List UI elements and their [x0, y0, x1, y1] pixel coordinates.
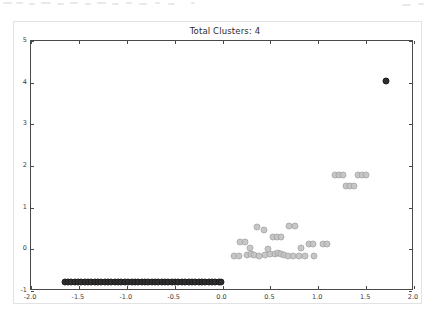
- y-tick-1: [31, 249, 34, 250]
- y-tick-label-1: 0: [18, 244, 27, 252]
- y-tick-6: [31, 41, 34, 42]
- x-tick-2: [127, 286, 128, 289]
- x-tick-label-7: 1.5: [360, 293, 370, 301]
- scan-fleck-11: [155, 2, 160, 4]
- data-point-cluster-2-15: [302, 252, 309, 259]
- y-tick-2: [409, 208, 412, 209]
- x-tick-label-2: -1.0: [119, 293, 132, 301]
- x-tick-4: [223, 286, 224, 289]
- x-tick-7: [366, 41, 367, 44]
- x-tick-label-4: 0.0: [216, 293, 226, 301]
- scan-fleck-0: [3, 2, 12, 4]
- x-tick-1: [79, 286, 80, 289]
- scan-fleck-14: [402, 4, 411, 6]
- y-tick-2: [31, 208, 34, 209]
- data-point-cluster-2-16: [310, 252, 317, 259]
- scan-fleck-12: [168, 3, 175, 5]
- data-point-cluster-2-22: [260, 226, 267, 233]
- data-point-cluster-2-32: [324, 241, 331, 248]
- data-point-cluster-2-28: [247, 244, 254, 251]
- x-tick-label-5: 0.5: [264, 293, 274, 301]
- y-tick-label-6: 5: [18, 36, 27, 44]
- scan-fleck-3: [41, 2, 51, 4]
- scan-fleck-15: [418, 3, 424, 5]
- x-tick-8: [414, 41, 415, 44]
- x-tick-1: [79, 41, 80, 44]
- scan-fleck-6: [85, 3, 91, 5]
- x-tick-7: [366, 286, 367, 289]
- x-tick-label-3: -0.5: [167, 293, 180, 301]
- x-tick-6: [318, 41, 319, 44]
- x-tick-label-6: 1.0: [312, 293, 322, 301]
- y-tick-5: [409, 83, 412, 84]
- x-tick-8: [414, 286, 415, 289]
- matplotlib-figure: Total Clusters: 4 -2.0-1.5-1.0-0.50.00.5…: [0, 0, 435, 325]
- scan-fleck-1: [16, 2, 23, 4]
- x-tick-label-8: 2.0: [408, 293, 418, 301]
- data-point-cluster-3-5: [363, 171, 370, 178]
- scan-fleck-10: [139, 3, 147, 5]
- data-point-cluster-2-1: [236, 252, 243, 259]
- data-point-cluster-4-0: [382, 77, 389, 84]
- data-point-cluster-2-24: [291, 223, 298, 230]
- y-tick-label-0: -1: [18, 286, 27, 294]
- x-tick-0: [31, 286, 32, 289]
- scan-fleck-13: [191, 2, 195, 4]
- scan-fleck-5: [70, 2, 78, 4]
- y-tick-label-2: 1: [18, 203, 27, 211]
- scan-artifact-band: [0, 0, 435, 14]
- y-tick-label-4: 3: [18, 119, 27, 127]
- plot-axes: [30, 40, 413, 290]
- x-tick-3: [175, 41, 176, 44]
- data-point-cluster-2-27: [278, 234, 285, 241]
- y-tick-label-5: 4: [18, 78, 27, 86]
- x-tick-label-0: -2.0: [24, 293, 37, 301]
- plot-title: Total Clusters: 4: [30, 26, 420, 36]
- x-tick-6: [318, 286, 319, 289]
- x-tick-4: [223, 41, 224, 44]
- data-point-cluster-1-47: [218, 278, 225, 285]
- scatter-plot-area: [31, 41, 412, 289]
- y-tick-4: [409, 124, 412, 125]
- x-tick-2: [127, 41, 128, 44]
- scan-fleck-2: [29, 3, 35, 5]
- data-point-cluster-3-2: [339, 171, 346, 178]
- x-tick-3: [175, 286, 176, 289]
- x-tick-5: [270, 286, 271, 289]
- y-tick-6: [409, 41, 412, 42]
- scan-fleck-4: [57, 3, 64, 5]
- scan-fleck-9: [126, 2, 132, 4]
- scan-fleck-8: [112, 3, 119, 5]
- y-tick-1: [409, 249, 412, 250]
- scan-fleck-7: [97, 2, 106, 4]
- y-tick-4: [31, 124, 34, 125]
- data-point-cluster-2-30: [298, 244, 305, 251]
- y-tick-3: [409, 166, 412, 167]
- y-tick-3: [31, 166, 34, 167]
- y-tick-5: [31, 83, 34, 84]
- x-tick-label-1: -1.5: [72, 293, 85, 301]
- data-point-cluster-2-29: [264, 245, 271, 252]
- y-tick-0: [409, 291, 412, 292]
- y-tick-label-3: 2: [18, 161, 27, 169]
- data-point-cluster-3-8: [350, 183, 357, 190]
- data-point-cluster-2-20: [309, 241, 316, 248]
- y-tick-0: [31, 291, 34, 292]
- x-tick-5: [270, 41, 271, 44]
